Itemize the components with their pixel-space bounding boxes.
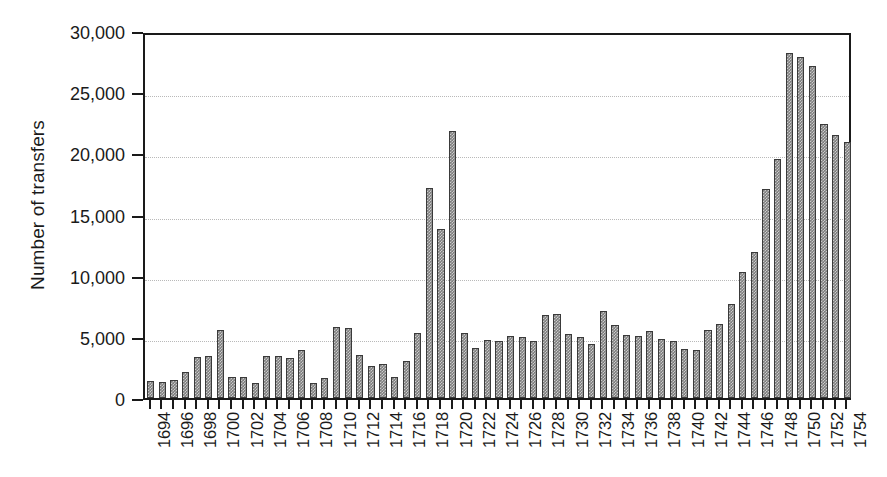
x-axis-tick-mark [578,400,580,409]
bar [286,358,293,398]
x-axis-tick-mark [323,400,325,409]
x-axis-tick-label: 1716 [410,412,429,448]
bar [739,272,746,398]
y-axis-tick-label: 20,000 [70,145,125,166]
x-axis-tick-label: 1726 [526,412,545,448]
x-axis-tick-mark [393,400,395,409]
bar [356,355,363,398]
x-axis-tick-mark [543,400,545,409]
x-axis-tick-label: 1712 [364,412,383,448]
x-axis-tick-mark [195,400,197,409]
bar [379,364,386,398]
bar [681,349,688,398]
x-axis-tick-mark [764,400,766,409]
bar [588,344,595,398]
x-axis-tick-label: 1732 [596,412,615,448]
bar [844,142,851,398]
bar [147,381,154,398]
bar [321,378,328,398]
x-axis-tick-mark [845,400,847,409]
x-axis-tick-mark [300,400,302,409]
x-axis-tick-label: 1752 [828,412,847,448]
x-axis-tick-mark [694,400,696,409]
x-axis-tick-mark [207,400,209,409]
bar [704,330,711,399]
x-axis-tick-mark [358,400,360,409]
x-axis-tick-mark [485,400,487,409]
bar [240,377,247,398]
x-axis-tick-mark [427,400,429,409]
y-axis-tick-label: 15,000 [70,206,125,227]
x-axis-tick-mark [706,400,708,409]
x-axis-tick-mark [172,400,174,409]
x-axis-tick-label: 1702 [248,412,267,448]
bar [263,356,270,398]
bar [252,383,259,398]
bar [530,341,537,398]
bar [310,383,317,398]
y-axis-tick-mark [132,93,143,95]
x-axis-tick-mark [555,400,557,409]
x-axis-tick-mark [509,400,511,409]
x-axis-tick-mark [288,400,290,409]
x-axis-tick-mark [741,400,743,409]
y-axis-tick-label: 25,000 [70,84,125,105]
bar [832,135,839,398]
x-axis-tick-mark [218,400,220,409]
x-axis-tick-label: 1700 [224,412,243,448]
x-axis-tick-mark [381,400,383,409]
bar [461,333,468,398]
x-axis-tick-mark [474,400,476,409]
x-axis-tick-mark [451,400,453,409]
bar [333,327,340,398]
x-axis-tick-mark [799,400,801,409]
x-axis-tick-label: 1728 [549,412,568,448]
bar [693,350,700,398]
x-axis-tick-label: 1708 [317,412,336,448]
bar [762,189,769,398]
bar [646,331,653,398]
x-axis-tick-mark [787,400,789,409]
y-axis-tick-mark [132,32,143,34]
bar [774,159,781,398]
x-axis-tick-mark [265,400,267,409]
x-axis-tick-mark [752,400,754,409]
x-axis-tick-label: 1706 [294,412,313,448]
x-axis-tick-mark [276,400,278,409]
bar [403,361,410,398]
x-axis-tick-mark [834,400,836,409]
y-axis-tick-mark [132,216,143,218]
bar [751,252,758,398]
bar [495,341,502,398]
bar-series [145,35,849,398]
x-axis-tick-mark [776,400,778,409]
bar [345,328,352,398]
x-axis-tick-label: 1736 [642,412,661,448]
bar [809,66,816,398]
x-axis-tick-mark [729,400,731,409]
y-axis-tick-label: 10,000 [70,267,125,288]
bar [170,380,177,398]
bar [426,188,433,398]
x-axis-tick-mark [462,400,464,409]
x-axis-tick-mark [520,400,522,409]
x-axis-tick-label: 1714 [387,412,406,448]
y-axis-tick-label: 0 [115,390,125,411]
bar [553,314,560,398]
y-axis-tick-group: 05,00010,00015,00020,00025,00030,000 [0,0,143,477]
x-axis-tick-mark [683,400,685,409]
bar [449,131,456,398]
bar [670,341,677,398]
x-axis-tick-mark [230,400,232,409]
bar [542,315,549,398]
x-axis-tick-label: 1722 [480,412,499,448]
x-axis-tick-mark [160,400,162,409]
bar [519,337,526,398]
x-axis-tick-mark [718,400,720,409]
x-axis-tick-label: 1746 [758,412,777,448]
x-axis-tick-mark [404,400,406,409]
x-axis-tick-label: 1704 [271,412,290,448]
y-axis-tick-mark [132,277,143,279]
x-axis-tick-label: 1730 [573,412,592,448]
bar [635,336,642,398]
